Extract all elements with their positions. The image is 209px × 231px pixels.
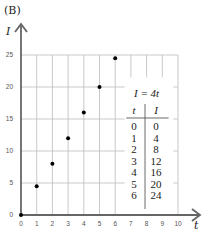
table-cell-i: 0 <box>153 120 159 132</box>
table-cell-t: 0 <box>131 120 137 132</box>
y-tick-label: 25 <box>6 51 14 58</box>
data-point <box>82 111 86 115</box>
data-point <box>50 162 54 166</box>
data-point <box>35 184 39 188</box>
table-cell-i: 20 <box>151 178 163 190</box>
x-tick-label: 6 <box>113 220 117 227</box>
table-cell-t: 6 <box>131 189 137 201</box>
y-tick-label: 20 <box>6 83 14 90</box>
table-cell-t: 2 <box>131 143 137 155</box>
table-cell-i: 24 <box>151 189 163 201</box>
y-tick-label: 0 <box>9 211 13 218</box>
y-tick-label: 10 <box>6 147 14 154</box>
x-tick-label: 3 <box>66 220 70 227</box>
data-point <box>113 56 117 60</box>
table-equation: I = 4t <box>133 87 160 99</box>
chart: (B)It0123456789100510152025I = 4ttI00142… <box>0 0 209 231</box>
table-cell-i: 4 <box>153 132 159 144</box>
x-tick-label: 8 <box>145 220 149 227</box>
data-point <box>98 85 102 89</box>
x-tick-label: 1 <box>35 220 39 227</box>
data-point <box>66 136 70 140</box>
x-tick-label: 7 <box>129 220 133 227</box>
table-cell-t: 1 <box>131 132 137 144</box>
table-cell-t: 3 <box>131 155 137 167</box>
x-tick-label: 10 <box>174 220 182 227</box>
x-tick-label: 4 <box>82 220 86 227</box>
y-axis-label: I <box>5 25 11 38</box>
x-tick-label: 2 <box>51 220 55 227</box>
x-axis-label: t <box>194 219 199 231</box>
x-tick-label: 0 <box>19 220 23 227</box>
table-cell-t: 4 <box>131 166 137 178</box>
panel-label: (B) <box>4 4 21 17</box>
y-tick-label: 15 <box>6 115 14 122</box>
x-tick-label: 9 <box>160 220 164 227</box>
table-cell-i: 16 <box>151 166 163 178</box>
table-cell-t: 5 <box>131 178 137 190</box>
data-point <box>19 213 23 217</box>
table-cell-i: 12 <box>151 155 162 167</box>
x-tick-label: 5 <box>98 220 102 227</box>
table-cell-i: 8 <box>153 143 159 155</box>
y-tick-label: 5 <box>9 179 13 186</box>
